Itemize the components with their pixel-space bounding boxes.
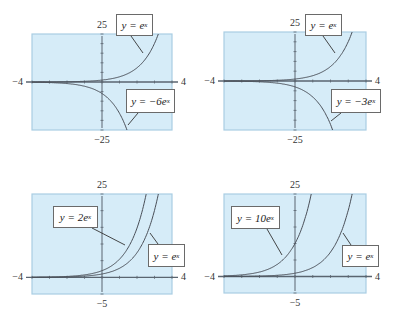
plot-area [26,177,178,294]
equation-label: y = ex [148,244,185,267]
x-min-label: −4 [204,272,215,282]
equation-label: y = −3ex [331,89,381,113]
plot-area [218,22,372,140]
x-min-label: −4 [12,272,23,282]
equation-label: y = −6ex [126,89,175,113]
y-max-label: 25 [97,180,107,190]
y-max-label: 25 [290,180,300,190]
figure-grid: 25−25−44y = exy = −6ex 25−25−44y = exy =… [0,0,399,320]
equation-label: y = 2ex [53,206,98,228]
x-max-label: 4 [375,272,380,282]
x-min-label: −4 [204,76,215,86]
plot-area [26,24,178,139]
x-max-label: 4 [181,77,186,87]
plots-canvas [0,0,399,320]
equation-label: y = ex [305,14,342,36]
x-max-label: 4 [181,272,186,282]
y-max-label: 25 [290,18,300,28]
x-max-label: 4 [375,76,380,86]
x-min-label: −4 [12,77,23,87]
y-min-label: −5 [290,298,301,308]
equation-label: y = 10ex [231,206,280,229]
plot-area [218,178,372,294]
y-max-label: 25 [97,20,107,30]
equation-label: y = ex [116,14,153,36]
equation-label: y = ex [342,245,379,267]
y-min-label: −25 [94,135,110,145]
y-min-label: −5 [97,299,108,309]
y-min-label: −25 [287,135,303,145]
